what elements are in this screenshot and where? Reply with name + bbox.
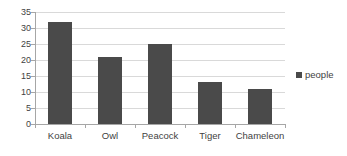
bar (148, 44, 172, 124)
x-axis-tick (285, 124, 286, 128)
x-axis-tick (35, 124, 36, 128)
y-axis-labels: 05101520253035 (0, 12, 31, 124)
y-axis-tick (31, 28, 35, 29)
y-axis-tick-label: 15 (0, 72, 31, 81)
bar-slot (85, 12, 135, 124)
bar (198, 82, 222, 124)
x-axis-category-label: Chameleon (235, 130, 285, 142)
legend-label: people (305, 70, 334, 80)
x-axis-category-label: Koala (35, 130, 85, 142)
y-axis-tick (31, 108, 35, 109)
x-axis-category-label: Owl (85, 130, 135, 142)
axis-baseline (35, 124, 285, 125)
bar-slot (185, 12, 235, 124)
bar-slot (235, 12, 285, 124)
y-axis-tick-label: 35 (0, 8, 31, 17)
y-axis-tick-label: 5 (0, 104, 31, 113)
y-axis-tick-label: 10 (0, 88, 31, 97)
bar (48, 22, 72, 124)
y-axis-line (35, 12, 36, 124)
bar (98, 57, 122, 124)
chart-legend: people (296, 70, 334, 80)
y-axis-tick (31, 92, 35, 93)
y-axis-tick-label: 20 (0, 56, 31, 65)
y-axis-tick (31, 44, 35, 45)
x-axis-labels: KoalaOwlPeacockTigerChameleon (35, 130, 285, 146)
plot-area (35, 12, 285, 124)
x-axis-category-label: Peacock (135, 130, 185, 142)
bar-series-people (35, 12, 285, 124)
y-axis-tick-label: 25 (0, 40, 31, 49)
y-axis-tick-label: 30 (0, 24, 31, 33)
bar-chart: 05101520253035 KoalaOwlPeacockTigerChame… (0, 0, 347, 156)
legend-swatch-icon (296, 72, 302, 78)
x-axis-tick (85, 124, 86, 128)
x-axis-tick (185, 124, 186, 128)
y-axis-tick-label: 0 (0, 120, 31, 129)
bar (248, 89, 272, 124)
bar-slot (35, 12, 85, 124)
bar-slot (135, 12, 185, 124)
y-axis-tick (31, 12, 35, 13)
x-axis-tick (135, 124, 136, 128)
y-axis-tick (31, 60, 35, 61)
x-axis-category-label: Tiger (185, 130, 235, 142)
y-axis-tick (31, 76, 35, 77)
x-axis-tick (235, 124, 236, 128)
